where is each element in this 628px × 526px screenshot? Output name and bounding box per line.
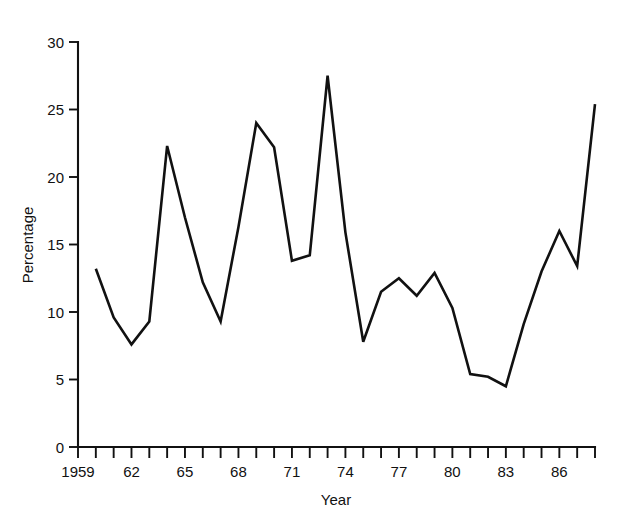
y-axis: 051015202530 <box>47 34 78 456</box>
x-tick-label-1959: 1959 <box>61 463 94 480</box>
x-tick-label-1983: 83 <box>498 463 515 480</box>
x-axis-title: Year <box>321 491 351 508</box>
y-tick-label-5: 5 <box>56 371 64 388</box>
y-tick-label-10: 10 <box>47 304 64 321</box>
y-tick-label-0: 0 <box>56 439 64 456</box>
y-tick-label-25: 25 <box>47 101 64 118</box>
x-tick-label-1977: 77 <box>391 463 408 480</box>
chart-container: 051015202530 1959626568717477808386 Perc… <box>0 0 628 526</box>
x-tick-label-1968: 68 <box>230 463 247 480</box>
x-tick-label-1986: 86 <box>551 463 568 480</box>
data-series-percentage <box>96 76 595 387</box>
y-tick-label-30: 30 <box>47 34 64 51</box>
y-tick-label-20: 20 <box>47 169 64 186</box>
percentage-line <box>96 76 595 387</box>
x-tick-label-1971: 71 <box>284 463 301 480</box>
y-axis-title: Percentage <box>19 207 36 284</box>
line-chart: 051015202530 1959626568717477808386 Perc… <box>0 0 628 526</box>
x-tick-label-1965: 65 <box>177 463 194 480</box>
x-tick-label-1962: 62 <box>123 463 140 480</box>
x-tick-label-1974: 74 <box>337 463 354 480</box>
x-tick-label-1980: 80 <box>444 463 461 480</box>
y-tick-label-15: 15 <box>47 236 64 253</box>
x-axis: 1959626568717477808386 <box>61 447 595 480</box>
